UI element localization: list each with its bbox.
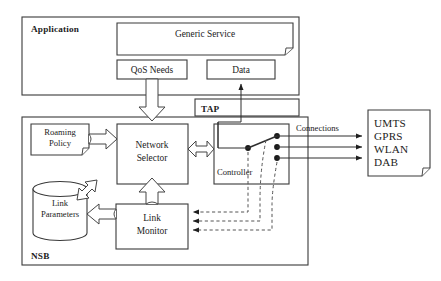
nsb-layer-label: NSB — [31, 251, 49, 261]
application-layer-label: Application — [31, 24, 79, 34]
roaming-policy-label-line1: Roaming — [44, 127, 76, 137]
network-selector-label-line2: Selector — [137, 153, 169, 163]
link-monitor-label-line1: Link — [143, 213, 161, 223]
generic-service-box — [117, 23, 293, 55]
qos-needs-label: QoS Needs — [131, 65, 174, 75]
controller-label: Controller — [217, 167, 252, 177]
roaming-policy-label-line2: Policy — [49, 138, 72, 148]
network-item-dab: DAB — [374, 156, 398, 168]
link-monitor-label-line2: Monitor — [137, 226, 169, 236]
network-item-wlan: WLAN — [374, 143, 408, 155]
network-item-umts: UMTS — [374, 117, 406, 129]
link-parameters-label-line1: Link — [52, 198, 69, 208]
network-selector-label-line1: Network — [136, 140, 169, 150]
diagram-canvas: Application Generic Service QoS Needs Da… — [0, 0, 441, 281]
network-item-gprs: GPRS — [374, 130, 403, 142]
architecture-diagram: Application Generic Service QoS Needs Da… — [0, 0, 441, 281]
data-label: Data — [232, 65, 251, 75]
connections-label: Connections — [296, 123, 340, 133]
tap-label: TAP — [201, 104, 219, 114]
generic-service-label: Generic Service — [175, 29, 235, 39]
link-parameters-label-line2: Parameters — [41, 209, 80, 219]
